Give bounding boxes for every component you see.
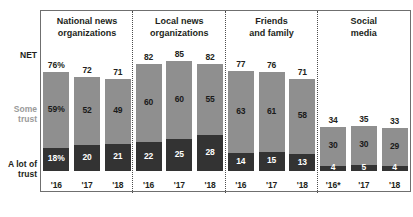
bar-value-net: 85 <box>166 49 192 59</box>
bar-value-some-trust: 55 <box>197 94 223 104</box>
bar-group: 59%18%76%522072492171 <box>41 11 133 171</box>
category-axis-labels: NET Some trust A lot of trust <box>0 0 37 217</box>
panel-local-news-organizations: Local news organizations'16'17'186022826… <box>133 11 225 193</box>
bar-value-a-lot-of-trust: 15 <box>259 155 285 165</box>
x-axis-tick-label: '18 <box>197 180 223 190</box>
bar-segment-a-lot-of-trust: 20 <box>74 145 100 171</box>
bar-value-some-trust: 52 <box>74 105 100 115</box>
bar-segment-some-trust: 59% <box>43 72 69 147</box>
bar-value-net: 72 <box>74 65 100 75</box>
stacked-bar[interactable]: 5813 <box>289 79 315 171</box>
bar-segment-some-trust: 30 <box>351 126 377 165</box>
bar-segment-some-trust: 58 <box>289 79 315 154</box>
bar-segment-some-trust: 55 <box>197 64 223 134</box>
bar-segment-a-lot-of-trust: 18% <box>43 148 69 171</box>
bar-value-a-lot-of-trust: 5 <box>351 162 377 172</box>
bar-group: 602282602585552882 <box>133 11 225 171</box>
bar-segment-a-lot-of-trust: 15 <box>259 152 285 172</box>
stacked-bar[interactable]: 6022 <box>136 64 162 171</box>
stacked-bar[interactable]: 4921 <box>105 79 131 171</box>
bar-value-some-trust: 60 <box>136 97 162 107</box>
bar-value-net: 71 <box>105 67 131 77</box>
x-axis-tick-label: '16 <box>228 180 254 190</box>
bar-value-a-lot-of-trust: 25 <box>166 149 192 159</box>
x-axis-tick-label: '16* <box>320 180 346 190</box>
bar-value-some-trust: 63 <box>228 106 254 116</box>
bar-value-a-lot-of-trust: 28 <box>197 147 223 157</box>
bar-value-some-trust: 29 <box>382 141 408 151</box>
bar-value-net: 33 <box>382 116 408 126</box>
axis-label-a-lot-of-trust: A lot of trust <box>8 160 37 180</box>
bar-segment-a-lot-of-trust: 13 <box>289 154 315 171</box>
bar-value-some-trust: 30 <box>320 140 346 150</box>
x-axis-tick-label: '16 <box>136 180 162 190</box>
stacked-bar[interactable]: 305 <box>351 126 377 172</box>
stacked-bar[interactable]: 6314 <box>228 71 254 171</box>
bar-value-net: 35 <box>351 114 377 124</box>
bar-value-a-lot-of-trust: 4 <box>320 162 346 172</box>
bar-value-net: 82 <box>197 52 223 62</box>
bar-value-a-lot-of-trust: 21 <box>105 151 131 161</box>
bar-segment-some-trust: 30 <box>320 127 346 166</box>
panel-social-media: Social media'16*'17'18304343053529433 <box>318 11 410 193</box>
bar-value-some-trust: 60 <box>166 94 192 104</box>
bar-group: 631477611576581371 <box>226 11 318 171</box>
x-axis-tick-label: '18 <box>289 180 315 190</box>
bar-value-a-lot-of-trust: 4 <box>382 162 408 172</box>
stacked-bar[interactable]: 5220 <box>74 77 100 171</box>
bar-value-a-lot-of-trust: 14 <box>228 156 254 166</box>
axis-label-net: NET <box>20 51 37 61</box>
bar-segment-some-trust: 63 <box>228 71 254 153</box>
x-axis-tick-label: '17 <box>259 180 285 190</box>
panel-friends-and-family: Friends and family'16'17'186314776115765… <box>226 11 318 193</box>
bar-value-some-trust: 59% <box>43 104 69 114</box>
stacked-bar[interactable]: 294 <box>382 128 408 171</box>
bar-segment-a-lot-of-trust: 14 <box>228 153 254 171</box>
stacked-bar[interactable]: 304 <box>320 127 346 171</box>
bar-segment-some-trust: 49 <box>105 79 131 144</box>
bar-value-some-trust: 30 <box>351 139 377 149</box>
bar-segment-a-lot-of-trust: 25 <box>166 139 192 172</box>
bar-segment-a-lot-of-trust: 4 <box>320 166 346 171</box>
bar-value-a-lot-of-trust: 18% <box>43 153 69 163</box>
bar-value-net: 82 <box>136 52 162 62</box>
bar-value-some-trust: 58 <box>289 110 315 120</box>
bar-segment-some-trust: 52 <box>74 77 100 145</box>
bar-segment-some-trust: 61 <box>259 72 285 151</box>
x-axis-tick-label: '18 <box>105 180 131 190</box>
bar-segment-a-lot-of-trust: 5 <box>351 165 377 172</box>
bar-value-a-lot-of-trust: 20 <box>74 152 100 162</box>
bar-segment-a-lot-of-trust: 4 <box>382 166 408 171</box>
bar-value-net: 77 <box>228 59 254 69</box>
bar-segment-some-trust: 60 <box>136 64 162 142</box>
bar-segment-some-trust: 29 <box>382 128 408 166</box>
stacked-bar[interactable]: 59%18% <box>43 72 69 171</box>
x-axis-tick-label: '17 <box>74 180 100 190</box>
x-axis-tick-label: '17 <box>351 180 377 190</box>
stacked-bar[interactable]: 5528 <box>197 64 223 171</box>
bar-segment-a-lot-of-trust: 28 <box>197 135 223 171</box>
bar-value-net: 71 <box>289 67 315 77</box>
axis-label-some-trust: Some trust <box>14 105 37 125</box>
stacked-bar[interactable]: 6025 <box>166 61 192 172</box>
chart-container: NET Some trust A lot of trust National n… <box>0 0 413 217</box>
bar-value-net: 76 <box>259 60 285 70</box>
bar-value-some-trust: 61 <box>259 106 285 116</box>
bar-segment-a-lot-of-trust: 22 <box>136 142 162 171</box>
bar-value-net: 76% <box>43 60 69 70</box>
plot-frame: National news organizations'16'17'1859%1… <box>40 10 411 192</box>
bar-value-a-lot-of-trust: 13 <box>289 157 315 167</box>
bar-segment-a-lot-of-trust: 21 <box>105 144 131 171</box>
bar-group: 304343053529433 <box>318 11 410 171</box>
x-axis-tick-label: '18 <box>382 180 408 190</box>
bar-value-some-trust: 49 <box>105 105 131 115</box>
stacked-bar[interactable]: 6115 <box>259 72 285 171</box>
bar-segment-some-trust: 60 <box>166 61 192 139</box>
panel-national-news-organizations: National news organizations'16'17'1859%1… <box>41 11 133 193</box>
x-axis-tick-label: '16 <box>43 180 69 190</box>
bar-value-net: 34 <box>320 115 346 125</box>
bar-value-a-lot-of-trust: 22 <box>136 151 162 161</box>
x-axis-tick-label: '17 <box>166 180 192 190</box>
